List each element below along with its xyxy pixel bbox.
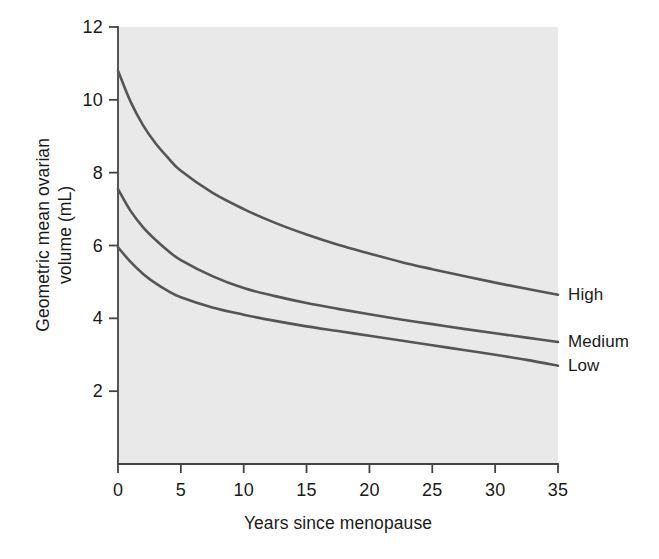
y-axis-tick-label: 8 [57,164,103,182]
x-axis-tick-label: 25 [412,481,452,499]
x-axis-tick-label: 0 [98,481,138,499]
y-axis-ticks [109,27,118,391]
series-label-high: High [568,286,603,303]
plot-canvas [0,0,659,559]
x-axis-tick-label: 35 [538,481,578,499]
y-axis-tick-label: 2 [57,382,103,400]
x-axis-ticks [118,464,558,473]
x-axis-tick-label: 15 [287,481,327,499]
series-label-low: Low [568,357,600,374]
y-axis-tick-label: 6 [57,237,103,255]
x-axis-tick-label: 10 [224,481,264,499]
chart-figure: Geometric mean ovarian volume (mL) 24681… [0,0,659,559]
series-label-medium: Medium [568,333,629,350]
y-axis-tick-label: 10 [57,91,103,109]
x-axis-tick-label: 5 [161,481,201,499]
x-axis-tick-label: 30 [475,481,515,499]
x-axis-title: Years since menopause [118,513,558,534]
x-axis-tick-label: 20 [349,481,389,499]
y-axis-tick-label: 4 [57,309,103,327]
y-axis-tick-label: 12 [57,18,103,36]
